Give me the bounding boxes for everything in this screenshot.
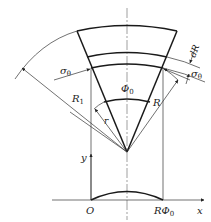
x-axis-label: x bbox=[197, 205, 203, 216]
R-label: R bbox=[152, 97, 161, 108]
dR-label: dR bbox=[187, 43, 201, 58]
r-arc-extension bbox=[94, 102, 104, 109]
y-axis-label: y bbox=[80, 152, 87, 163]
sigma-right-label: σθ bbox=[191, 68, 202, 81]
r1-radius-line bbox=[22, 68, 127, 152]
origin-label: O bbox=[86, 205, 94, 216]
sector-left-edge bbox=[77, 31, 127, 152]
dr-arrow-bottom bbox=[186, 74, 189, 84]
sigma-left-label: σθ bbox=[60, 65, 71, 78]
bending-sector-diagram: σθ σθ Φ0 R1 R r dR y x O RΦ0 bbox=[0, 0, 211, 222]
R-phi0-label: RΦ0 bbox=[153, 205, 174, 218]
R1-label: R1 bbox=[71, 93, 84, 106]
r-label: r bbox=[104, 116, 109, 126]
